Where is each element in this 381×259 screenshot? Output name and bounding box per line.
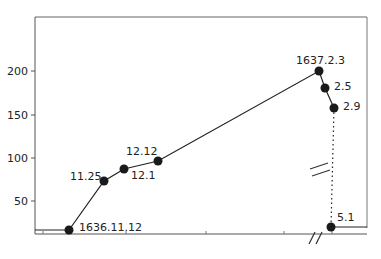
plot-frame <box>35 17 367 234</box>
point-label: 1637.2.3 <box>296 54 345 67</box>
data-point <box>65 226 74 235</box>
y-axis: 200 150 100 50 <box>7 65 35 208</box>
point-label: 1636.11.12 <box>79 221 142 234</box>
series-line <box>35 71 367 230</box>
y-tick-label: 50 <box>14 195 28 208</box>
point-label: 12.12 <box>126 145 158 158</box>
y-tick: 100 <box>7 152 35 165</box>
line-chart: 200 150 100 50 <box>0 0 381 259</box>
data-point <box>315 67 324 76</box>
point-label: 2.9 <box>343 100 361 113</box>
y-tick: 50 <box>14 195 35 208</box>
data-point <box>321 84 330 93</box>
y-tick-label: 200 <box>7 65 28 78</box>
point-label: 11.25 <box>70 170 102 183</box>
data-point <box>327 223 336 232</box>
point-label: 2.5 <box>334 80 352 93</box>
y-tick: 150 <box>7 109 35 122</box>
y-tick-label: 150 <box>7 109 28 122</box>
data-point <box>120 165 129 174</box>
data-point <box>330 104 339 113</box>
point-labels: 1636.11.12 11.25 12.1 12.12 1637.2.3 2.5… <box>70 54 361 234</box>
line-break-icon <box>310 163 330 176</box>
point-label: 12.1 <box>131 169 156 182</box>
y-tick-label: 100 <box>7 152 28 165</box>
point-label: 5.1 <box>337 211 355 224</box>
data-points <box>65 67 339 235</box>
y-tick: 200 <box>7 65 35 78</box>
